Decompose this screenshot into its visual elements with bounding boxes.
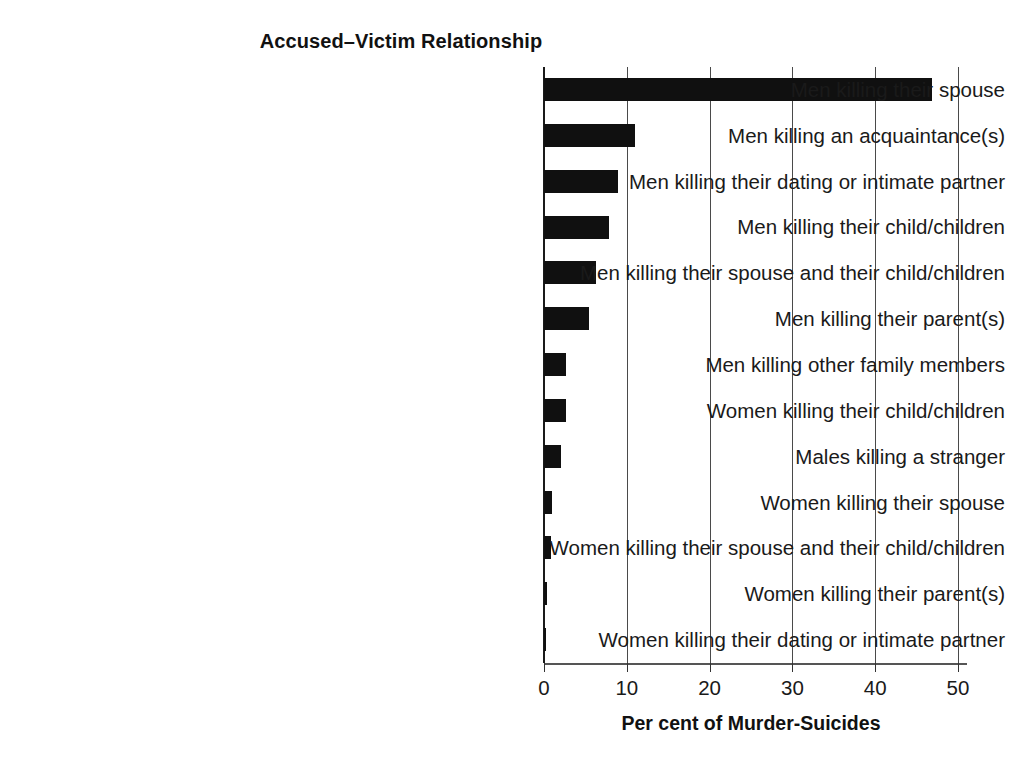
x-tick-label-0: 0 [514,676,574,700]
x-tick-mark-40 [875,663,876,672]
x-tick-mark-0 [544,663,545,672]
x-tick-label-10: 10 [597,676,657,700]
category-label: Men killing their spouse [480,78,1014,102]
x-tick-label-30: 30 [762,676,822,700]
category-label: Women killing their dating or intimate p… [480,628,1014,652]
category-label: Women killing their spouse [480,491,1014,515]
category-label: Men killing their spouse and their child… [480,261,1014,285]
x-axis-title: Per cent of Murder-Suicides [544,712,958,735]
category-label: Men killing other family members [480,353,1014,377]
category-label: Men killing their dating or intimate par… [480,170,1014,194]
category-label: Men killing their child/children [480,215,1014,239]
chart-title: Accused–Victim Relationship [0,30,802,53]
x-tick-mark-30 [792,663,793,672]
category-label: Women killing their child/children [480,399,1014,423]
category-label: Males killing a stranger [480,445,1014,469]
x-tick-mark-10 [627,663,628,672]
category-label: Men killing an acquaintance(s) [480,124,1014,148]
x-tick-label-50: 50 [928,676,988,700]
category-label: Women killing their parent(s) [480,582,1014,606]
x-tick-label-40: 40 [845,676,905,700]
x-tick-mark-20 [710,663,711,672]
category-label: Women killing their spouse and their chi… [480,536,1014,560]
x-tick-label-20: 20 [680,676,740,700]
x-tick-mark-50 [958,663,959,672]
category-label: Men killing their parent(s) [480,307,1014,331]
x-axis-line [544,663,967,665]
chart-figure: Accused–Victim Relationship Per cent of … [0,0,1014,771]
